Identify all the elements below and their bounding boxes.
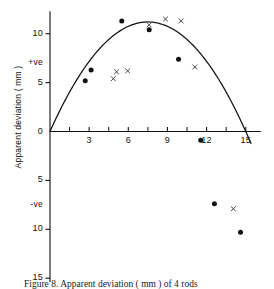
data-point-circle [147,27,152,32]
data-point-circle [176,57,181,62]
data-point-circle [89,67,94,72]
y-annotation-positive: +ve [12,57,43,67]
data-point-x [179,19,184,24]
data-point-circle [212,201,217,206]
y-tick-label-5: 5 [17,77,43,87]
data-point-x [231,206,236,211]
y-tick-label-0: 0 [17,126,43,136]
data-point-x [163,17,168,22]
data-point-circle [83,78,88,83]
data-point-circle [119,18,124,23]
data-point-x [192,65,197,70]
x-tick-label-15: 15 [236,135,256,145]
y-annotation-negative: -ve [12,199,43,209]
y-tick-label-5: 5 [17,174,43,184]
data-point-x [114,69,119,74]
x-tick-label-12: 12 [197,135,217,145]
y-tick-label-10: 10 [17,223,43,233]
data-point-x [111,76,116,81]
y-tick-label-10: 10 [17,28,43,38]
x-tick-label-6: 6 [118,135,138,145]
data-point-x [125,68,130,73]
x-tick-label-3: 3 [79,135,99,145]
data-point-circle [238,230,243,235]
figure-caption: Figure 8. Apparent deviation ( mm ) of 4… [24,279,274,289]
fitted-curve [50,22,251,144]
x-tick-label-9: 9 [157,135,177,145]
data-point-x [147,22,152,27]
